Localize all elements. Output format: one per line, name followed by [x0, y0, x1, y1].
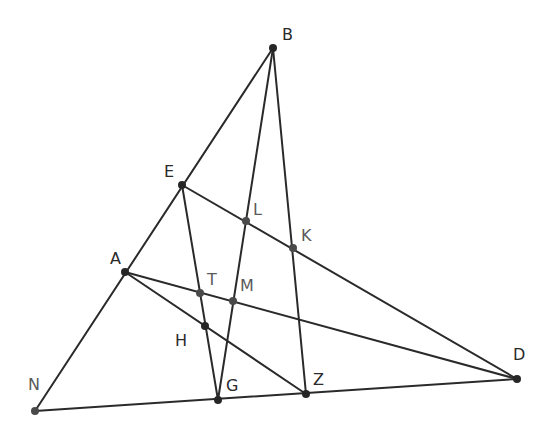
label-h: H: [175, 331, 187, 350]
label-z: Z: [313, 370, 324, 389]
point-n: [31, 407, 39, 415]
segment-ed: [182, 185, 517, 379]
point-m: [229, 297, 237, 305]
segment-bz: [273, 48, 306, 394]
point-a: [121, 268, 129, 276]
point-d: [513, 375, 521, 383]
label-e: E: [164, 162, 174, 181]
label-d: D: [513, 345, 525, 364]
point-h: [201, 322, 209, 330]
segment-nd: [35, 379, 517, 411]
point-k: [289, 244, 297, 252]
label-m: M: [240, 276, 254, 295]
label-g: G: [226, 376, 238, 395]
segment-ad: [125, 272, 517, 379]
segments-group: [35, 48, 517, 411]
label-b: B: [282, 25, 293, 44]
label-k: K: [301, 226, 312, 245]
segment-az: [125, 272, 306, 394]
point-z: [302, 390, 310, 398]
label-a: A: [110, 249, 121, 268]
point-b: [269, 44, 277, 52]
point-t: [196, 289, 204, 297]
segment-bn: [35, 48, 273, 411]
label-n: N: [28, 375, 40, 394]
point-l: [242, 217, 250, 225]
point-e: [178, 181, 186, 189]
point-g: [214, 396, 222, 404]
label-l: L: [253, 200, 262, 219]
geometry-diagram: BEANLKTMHGZD: [0, 0, 553, 441]
label-t: T: [206, 270, 217, 289]
